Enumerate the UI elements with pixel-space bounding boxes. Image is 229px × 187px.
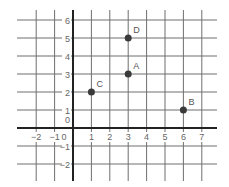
x-tick-label: 2 — [107, 132, 112, 142]
x-tick-label: 1 — [89, 132, 94, 142]
x-tick-label: 7 — [199, 132, 204, 142]
point-d — [125, 35, 132, 42]
x-tick-label: 4 — [144, 132, 149, 142]
point-label-d: D — [133, 25, 140, 35]
y-tick-label: 5 — [65, 34, 70, 44]
y-tick-label: 1 — [65, 106, 70, 116]
y-tick-label: 0 — [65, 115, 70, 125]
y-tick-label: −2 — [60, 160, 70, 170]
point-c — [88, 89, 95, 96]
y-tick-label: 2 — [65, 88, 70, 98]
point-a — [125, 71, 132, 78]
y-tick-label: −1 — [60, 142, 70, 152]
x-tick-label: 3 — [126, 132, 131, 142]
point-label-b: B — [188, 97, 194, 107]
y-tick-label: 3 — [65, 70, 70, 80]
point-label-a: A — [133, 61, 139, 71]
point-b — [180, 107, 187, 114]
x-tick-label: −1 — [49, 132, 59, 142]
x-tick-label: 5 — [162, 132, 167, 142]
point-label-c: C — [96, 79, 103, 89]
axes — [17, 10, 217, 181]
x-tick-label: 6 — [181, 132, 186, 142]
y-tick-label: 4 — [65, 52, 70, 62]
y-tick-label: 6 — [65, 16, 70, 26]
grid-lines — [17, 10, 217, 181]
x-tick-label: 0 — [61, 132, 66, 142]
coordinate-grid: −2−101234567−2−10123456 ABCD — [0, 0, 229, 187]
x-tick-label: −2 — [31, 132, 41, 142]
